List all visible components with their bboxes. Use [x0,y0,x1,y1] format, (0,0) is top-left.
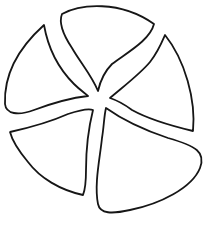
pinwheel-drawing [0,0,207,225]
petal-bottom-left [10,109,93,195]
